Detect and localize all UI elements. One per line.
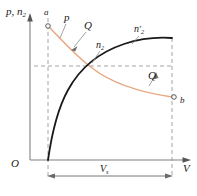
diagram-canvas xyxy=(0,0,197,196)
point-marker-b xyxy=(172,95,177,100)
heat-label-q-bottom: Q xyxy=(148,70,156,81)
y-axis-arrowhead xyxy=(27,13,33,22)
curve-label-n2: n2 xyxy=(96,40,104,50)
y-axis-label: p, n2 xyxy=(6,6,26,17)
origin-label: O xyxy=(11,158,19,169)
curve-label-n2-prime: n′2 xyxy=(134,24,144,34)
point-label-b: b xyxy=(180,96,185,105)
x-axis-label: V xyxy=(183,163,190,174)
heat-label-q-top: Q xyxy=(84,20,92,31)
pressure-curve-p xyxy=(48,26,172,97)
leader-line-p xyxy=(60,24,66,38)
speed-curve-n2-prime xyxy=(48,38,172,160)
point-marker-a xyxy=(46,24,51,29)
point-label-a: a xyxy=(44,8,49,17)
dimension-span-vs xyxy=(47,173,173,178)
curve-label-p: p xyxy=(64,12,70,23)
leader-line-q-top xyxy=(74,32,86,47)
span-label-vs: Vs xyxy=(100,164,109,174)
figure-container: p, n2 a p Q n2 n′2 Q b O Vs V xyxy=(0,0,197,196)
